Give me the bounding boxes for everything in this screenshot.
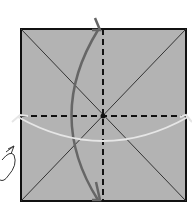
- origami-diagram: [0, 0, 192, 214]
- turn-over-arrow-head: [6, 146, 14, 154]
- center-point: [101, 114, 106, 119]
- turn-over-arrow: [0, 153, 15, 180]
